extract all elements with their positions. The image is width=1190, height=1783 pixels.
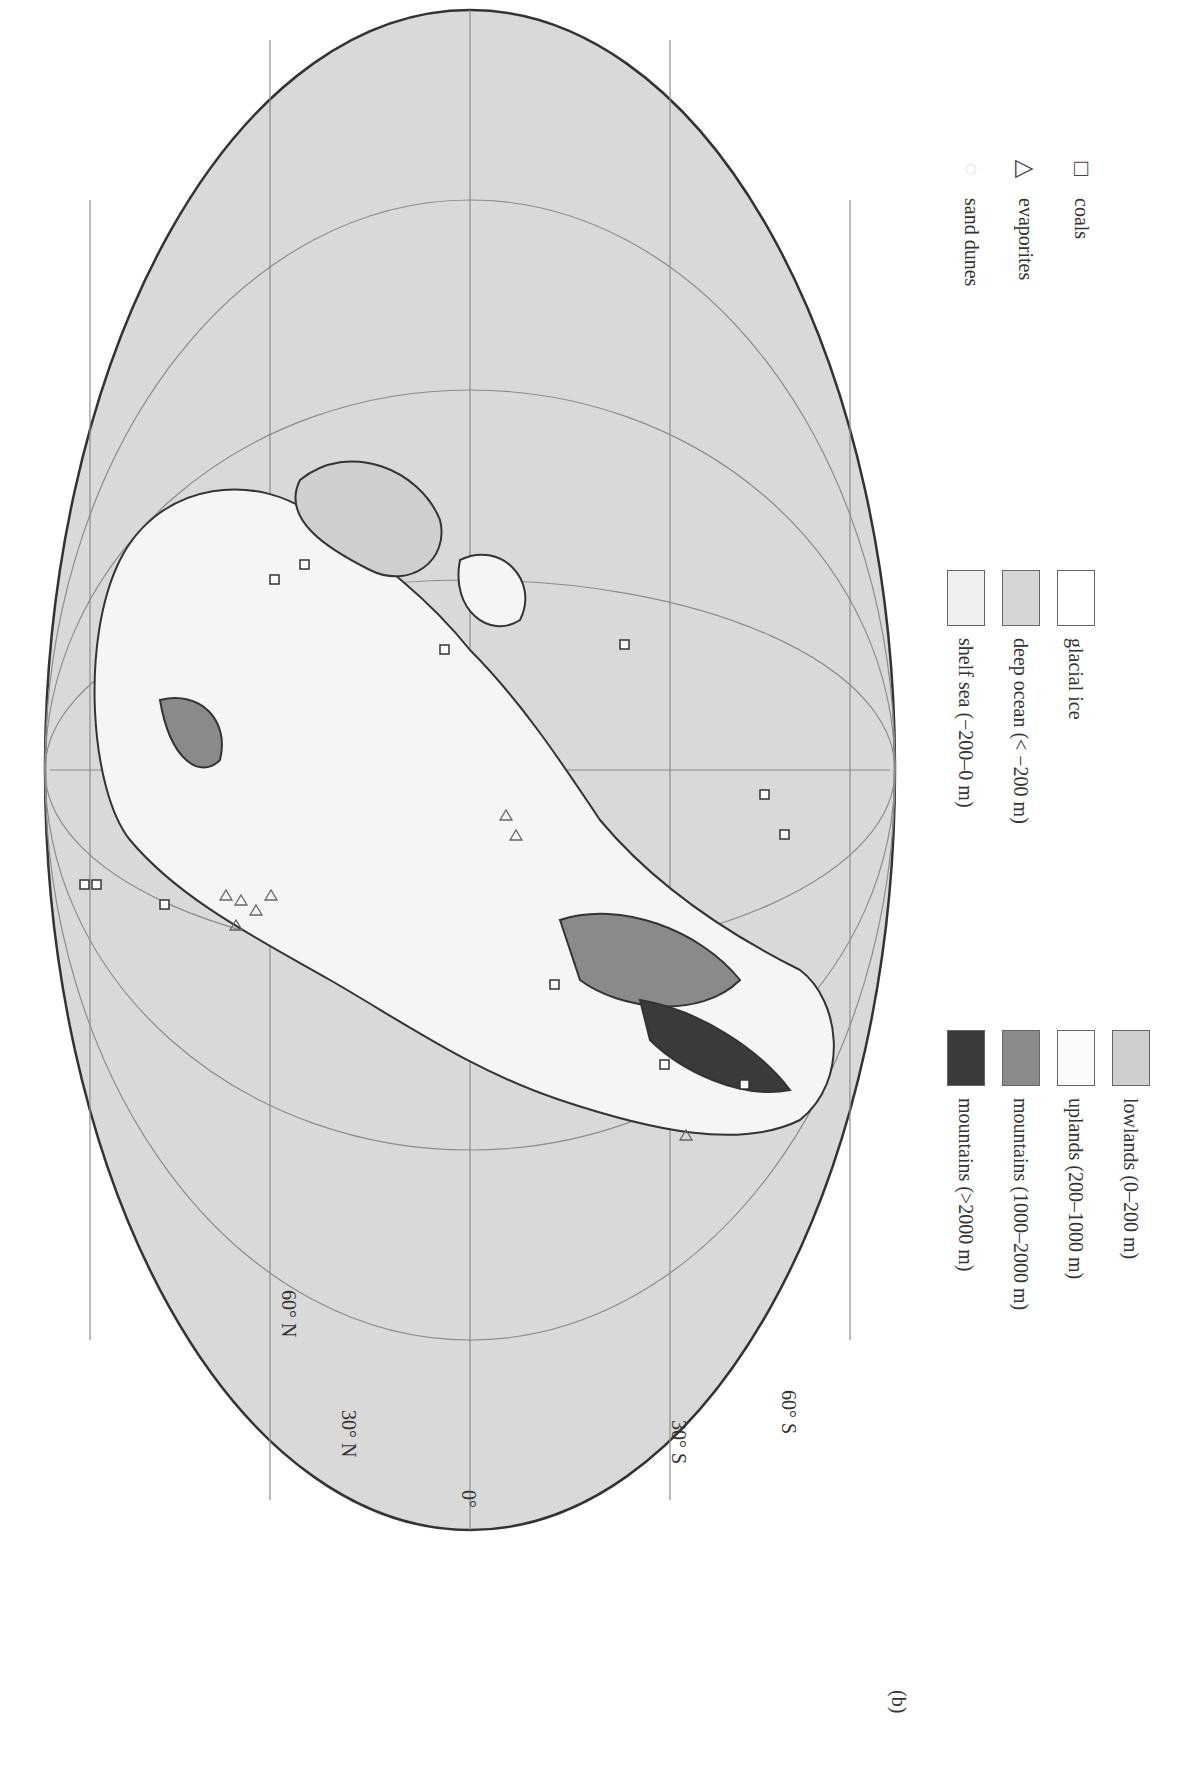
legend-mountains-high: mountains (>2000 m) (947, 1030, 985, 1272)
legend-sand-dunes: ○ sand dunes (958, 150, 985, 286)
swatch-shelf-sea (947, 570, 985, 626)
legend-deep-ocean: deep ocean (< −200 m) (1002, 570, 1040, 824)
swatch-mountains-mid (1002, 1030, 1040, 1086)
swatch-mountains-high (947, 1030, 985, 1086)
lat-label-30s: 30° S (667, 1420, 690, 1464)
lat-label-30n: 30° N (337, 1410, 360, 1457)
legend-glacial-ice: glacial ice (1057, 570, 1095, 720)
legend-lowlands: lowlands (0–200 m) (1112, 1030, 1150, 1259)
swatch-uplands (1057, 1030, 1095, 1086)
legend-uplands: uplands (200–1000 m) (1057, 1030, 1095, 1279)
legend-coals: □ coals (1068, 150, 1095, 239)
legend-evaporites: △ evaporites (1012, 150, 1040, 280)
lat-label-equator: 0° (457, 1490, 480, 1508)
square-icon: □ (1068, 150, 1095, 188)
swatch-glacial-ice (1057, 570, 1095, 626)
panel-label: (b) (887, 1690, 910, 1713)
legend-mountains-mid: mountains (1000–2000 m) (1002, 1030, 1040, 1310)
lat-label-60s: 60° S (777, 1390, 800, 1434)
swatch-lowlands (1112, 1030, 1150, 1086)
legend-shelf-sea: shelf sea (−200–0 m) (947, 570, 985, 808)
triangle-icon: △ (1012, 150, 1040, 188)
circle-icon: ○ (958, 150, 985, 188)
swatch-deep-ocean (1002, 570, 1040, 626)
lat-label-60n: 60° N (277, 1290, 300, 1337)
